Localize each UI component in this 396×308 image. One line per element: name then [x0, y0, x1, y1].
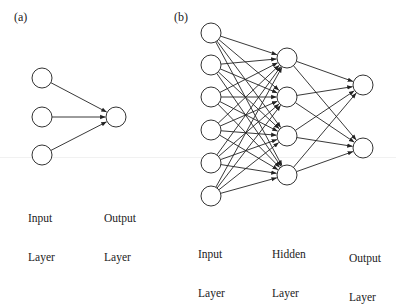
connection-arrow — [293, 93, 356, 167]
connection-arrow — [295, 91, 354, 131]
label-line-2: Layer — [272, 287, 306, 300]
neuron-node — [277, 126, 297, 146]
label-line-1: Input — [198, 248, 225, 261]
label-line-2: Layer — [104, 251, 136, 264]
neuron-node — [201, 23, 221, 43]
connection-arrow — [296, 152, 353, 172]
connection-arrow — [221, 59, 277, 64]
connection-arrow — [217, 105, 281, 188]
neuron-node — [353, 138, 373, 158]
connection-arrow — [51, 83, 107, 112]
connection-arrow — [51, 122, 107, 151]
neuron-node — [32, 145, 52, 165]
neuron-node — [277, 48, 297, 68]
connection-arrow — [296, 61, 353, 81]
panel-b-input-layer-label: Input Layer — [198, 222, 225, 308]
label-line-1: Input — [28, 212, 55, 225]
connection-arrow — [297, 87, 353, 96]
neuron-node — [32, 68, 52, 88]
connection-arrow — [297, 138, 353, 147]
panel-b-label: (b) — [174, 10, 188, 25]
neuron-node — [106, 107, 126, 127]
label-line-1: Hidden — [272, 248, 306, 261]
label-line-1: Output — [349, 252, 381, 265]
connection-arrow — [295, 103, 354, 143]
neuron-node — [201, 186, 221, 206]
label-line-2: Layer — [349, 291, 381, 304]
connection-arrow — [219, 104, 280, 157]
panel-b-hidden-layer-label: Hidden Layer — [272, 222, 306, 308]
connection-arrow — [293, 66, 356, 140]
label-line-2: Layer — [198, 287, 225, 300]
neuron-node — [32, 107, 52, 127]
connection-arrow — [220, 36, 277, 55]
neuron-node — [201, 87, 221, 107]
connection-arrow — [220, 63, 278, 93]
connection-arrow — [217, 41, 281, 128]
nodes-group — [32, 23, 373, 206]
connection-arrow — [218, 65, 279, 123]
neuron-node — [277, 87, 297, 107]
neuron-node — [201, 153, 221, 173]
connection-arrow — [221, 178, 277, 194]
panel-a-input-layer-label: Input Layer — [28, 186, 55, 277]
panel-a-output-layer-label: Output Layer — [104, 186, 136, 277]
neuron-node — [277, 165, 297, 185]
panel-a-label: (a) — [14, 10, 27, 25]
neuron-node — [201, 120, 221, 140]
label-line-1: Output — [104, 212, 136, 225]
neuron-node — [353, 75, 373, 95]
panel-b-output-layer-label: Output Layer — [349, 226, 381, 308]
connection-arrow — [221, 131, 277, 135]
label-line-2: Layer — [28, 251, 55, 264]
connection-arrow — [220, 69, 277, 93]
neuron-node — [201, 55, 221, 75]
